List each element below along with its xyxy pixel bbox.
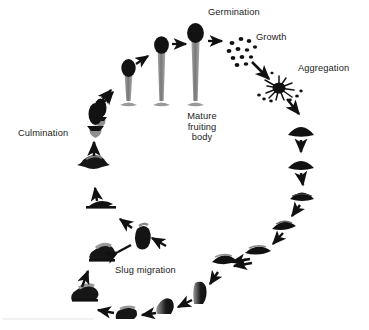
stage-fruiting-body-2 <box>120 59 137 106</box>
diagram-canvas <box>0 0 369 330</box>
stage-slug-2 <box>156 298 174 314</box>
stage-slug-upright <box>135 224 151 250</box>
arrow-to-stage-mound-3 <box>301 173 303 185</box>
arrow-to-stage-culmination-1 <box>95 188 97 201</box>
stage-slug-1 <box>193 282 206 304</box>
label-mature-fruiting-body-line3: body <box>173 132 231 143</box>
label-mature-fruiting-body-line1: Mature <box>173 111 231 122</box>
arrow-to-stage-slug-2 <box>178 300 192 307</box>
arrow-to-stage-slug-4 <box>98 310 114 313</box>
stage-mature-fruiting-body <box>187 23 204 106</box>
arrow-to-stage-fruiting-3 <box>136 56 148 64</box>
arrow-to-stage-slug-3 <box>142 313 156 315</box>
stage-fruiting-body-3 <box>153 36 170 106</box>
arrow-to-stage-mound-1 <box>287 99 299 114</box>
stage-mound-3 <box>290 193 314 202</box>
stage-slug-3 <box>116 307 137 319</box>
arrow-to-stage-aggregation <box>252 62 269 79</box>
arrow-to-stage-slug-1 <box>210 272 218 284</box>
stage-mound-1 <box>288 127 314 137</box>
label-mature-fruiting-body: Mature fruiting body <box>173 111 231 143</box>
stage-mound-4-tipped <box>272 221 296 230</box>
stage-slug-4-migrating <box>71 285 98 302</box>
label-germination: Germination <box>208 7 260 18</box>
arrow-to-stage-slug-upright <box>118 245 131 252</box>
arrow-to-stage-mound-6b <box>234 263 252 266</box>
stage-mound-2 <box>288 161 314 170</box>
life-cycle-diagram: Germination Growth Aggregation Mature fr… <box>0 0 369 330</box>
label-culmination: Culmination <box>18 128 68 139</box>
label-aggregation: Aggregation <box>298 63 349 74</box>
arrow-to-stage-mound-5 <box>273 233 283 244</box>
stage-aggregation <box>257 72 303 103</box>
label-mature-fruiting-body-line2: fruiting <box>173 122 231 133</box>
arrow-to-stage-mound-4 <box>292 205 300 216</box>
arrow-to-stage-mexican-hat <box>120 219 132 228</box>
stage-mexican-hat <box>86 201 116 209</box>
label-slug-migration: Slug migration <box>115 265 176 276</box>
stage-culmination-1 <box>77 155 110 169</box>
arrow-to-stage-slug-upright-in <box>152 238 166 246</box>
label-growth: Growth <box>256 32 287 43</box>
stage-mound-5-tipped <box>245 246 271 255</box>
scan-artifact <box>2 318 94 320</box>
stage-slug-5-standing <box>89 244 115 261</box>
